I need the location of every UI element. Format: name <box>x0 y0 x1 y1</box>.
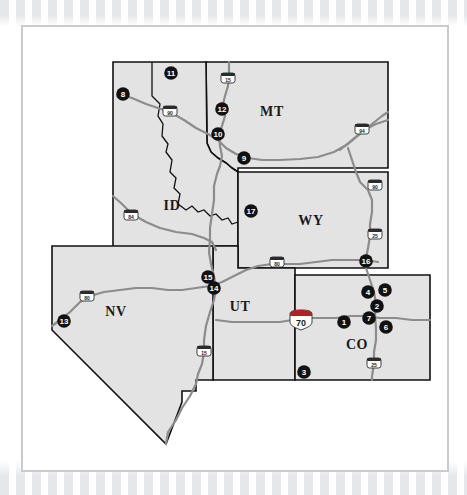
marker-12[interactable]: 12 <box>215 102 229 116</box>
shield-label: 80 <box>84 295 90 301</box>
shield-label: 90 <box>167 110 173 116</box>
marker-17[interactable]: 17 <box>244 204 258 218</box>
marker-label: 9 <box>242 154 247 163</box>
marker-label: 8 <box>121 90 126 99</box>
shield-label: 84 <box>128 214 134 220</box>
shield-I25-CO[interactable]: 25 <box>367 358 381 368</box>
state-label-CO: CO <box>346 337 368 352</box>
marker-label: 6 <box>384 323 389 332</box>
marker-10[interactable]: 10 <box>211 127 225 141</box>
marker-label: 17 <box>247 207 256 216</box>
marker-label: 11 <box>167 69 176 78</box>
marker-label: 5 <box>383 286 388 295</box>
shield-label: 15 <box>225 77 231 83</box>
shield-label: 25 <box>372 233 378 239</box>
marker-7[interactable]: 7 <box>362 311 376 325</box>
marker-6[interactable]: 6 <box>379 320 393 334</box>
marker-2[interactable]: 2 <box>370 299 384 313</box>
marker-11[interactable]: 11 <box>164 66 178 80</box>
shield-I84-ID[interactable]: 84 <box>124 210 138 220</box>
marker-3[interactable]: 3 <box>297 365 311 379</box>
shield-I80-WY[interactable]: 80 <box>270 257 284 267</box>
western-states-map[interactable]: MT ID WY NV UT CO 15 90 94 84 90 25 80 <box>0 0 467 495</box>
shield-I15-UT[interactable]: 15 <box>197 346 211 356</box>
shield-label: 90 <box>372 184 378 190</box>
marker-label: 2 <box>375 302 380 311</box>
marker-5[interactable]: 5 <box>378 283 392 297</box>
marker-4[interactable]: 4 <box>361 285 375 299</box>
shield-I25-WY[interactable]: 25 <box>368 229 382 239</box>
state-label-UT: UT <box>230 299 251 314</box>
marker-9[interactable]: 9 <box>237 151 251 165</box>
marker-15[interactable]: 15 <box>201 270 215 284</box>
state-shape-NV[interactable] <box>52 246 213 444</box>
marker-8[interactable]: 8 <box>116 87 130 101</box>
shield-label: 70 <box>296 318 306 328</box>
marker-16[interactable]: 16 <box>359 254 373 268</box>
marker-label: 15 <box>204 273 213 282</box>
shield-label: 94 <box>359 128 365 134</box>
marker-label: 7 <box>367 314 372 323</box>
shield-I90-MT[interactable]: 90 <box>163 106 177 116</box>
shield-label: 25 <box>371 362 377 368</box>
marker-label: 1 <box>342 318 347 327</box>
state-label-ID: ID <box>164 198 181 213</box>
marker-label: 3 <box>302 368 307 377</box>
marker-label: 4 <box>366 288 371 297</box>
marker-label: 13 <box>60 317 69 326</box>
shield-I90-WY[interactable]: 90 <box>368 180 382 190</box>
state-label-WY: WY <box>298 213 323 228</box>
marker-label: 14 <box>210 284 219 293</box>
marker-label: 16 <box>362 257 371 266</box>
shield-I80-NV[interactable]: 80 <box>80 291 94 301</box>
shield-label: 80 <box>274 261 280 267</box>
shield-I15-MT[interactable]: 15 <box>221 73 235 83</box>
marker-label: 12 <box>218 105 227 114</box>
marker-label: 10 <box>214 130 223 139</box>
state-label-MT: MT <box>260 104 284 119</box>
map-container: MT ID WY NV UT CO 15 90 94 84 90 25 80 <box>0 0 467 495</box>
shield-I94-MT[interactable]: 94 <box>355 124 369 134</box>
marker-13[interactable]: 13 <box>57 314 71 328</box>
shield-label: 15 <box>201 350 207 356</box>
state-label-NV: NV <box>105 304 126 319</box>
marker-1[interactable]: 1 <box>337 315 351 329</box>
